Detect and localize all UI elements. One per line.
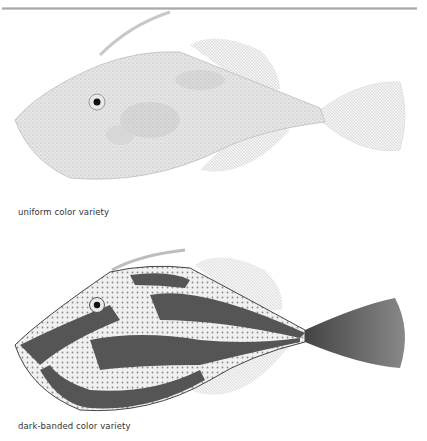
pectoral-fin — [106, 125, 134, 145]
dorsal-spine — [100, 12, 170, 55]
caudal-fin — [320, 82, 405, 151]
fish-illustration-dark-banded — [0, 230, 427, 415]
fish-illustration-uniform — [0, 10, 427, 190]
figure-uniform-variety — [0, 10, 427, 190]
figure-dark-banded-variety — [0, 230, 427, 415]
caudal-fin — [305, 298, 405, 368]
caption-dark-banded-variety: dark-banded color variety — [18, 421, 131, 431]
caption-uniform-variety: uniform color variety — [18, 207, 109, 217]
